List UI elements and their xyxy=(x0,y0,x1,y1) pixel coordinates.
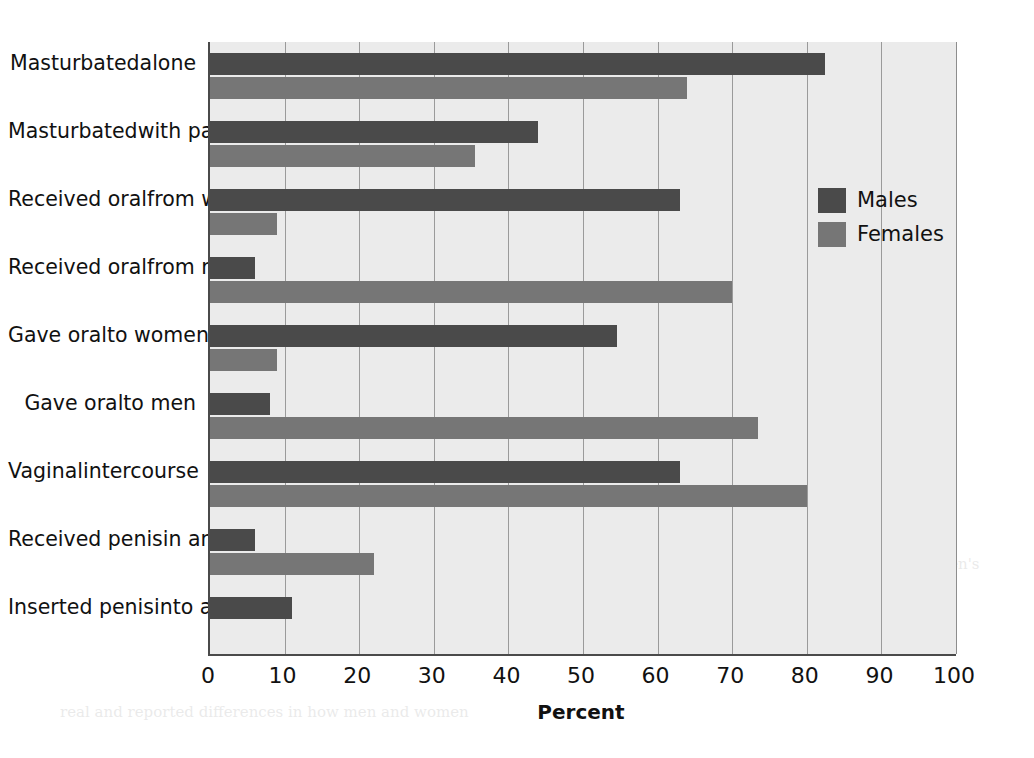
x-tick-label: 100 xyxy=(924,663,984,688)
bar-females xyxy=(210,349,277,371)
category-label: Inserted penisinto anus xyxy=(8,594,196,620)
bar-males xyxy=(210,325,617,347)
gridline xyxy=(881,42,882,654)
legend-item-males: Males xyxy=(818,183,944,217)
category-label-line: Gave oral xyxy=(24,391,123,415)
category-label: Vaginalintercourse xyxy=(8,458,196,484)
x-tick-label: 0 xyxy=(178,663,238,688)
chart-legend: Males Females xyxy=(818,183,944,251)
bar-females xyxy=(210,77,687,99)
category-label-line: Received oral xyxy=(8,255,147,279)
gridline xyxy=(732,42,733,654)
category-label: Masturbatedalone xyxy=(8,50,196,76)
category-label-line: to men xyxy=(123,391,196,415)
bar-males xyxy=(210,529,255,551)
category-label-line: Received penis xyxy=(8,527,163,551)
category-label-line: Vaginal xyxy=(8,459,83,483)
bar-females xyxy=(210,485,807,507)
category-label-line: Inserted penis xyxy=(8,595,154,619)
legend-item-females: Females xyxy=(818,217,944,251)
legend-swatch-females-icon xyxy=(818,222,846,247)
category-label: Received penisin anus xyxy=(8,526,196,552)
gridline xyxy=(807,42,808,654)
x-tick-label: 20 xyxy=(327,663,387,688)
gridline xyxy=(583,42,584,654)
bar-males xyxy=(210,393,270,415)
bar-females xyxy=(210,145,475,167)
bar-males xyxy=(210,597,292,619)
category-label-line: Masturbated xyxy=(10,51,140,75)
bar-chart: MasturbatedaloneMasturbatedwith partnerR… xyxy=(0,0,1034,758)
legend-label-males: Males xyxy=(857,188,918,212)
category-label-line: to women xyxy=(107,323,209,347)
gridline xyxy=(956,42,957,654)
bar-males xyxy=(210,257,255,279)
category-label-line: Gave oral xyxy=(8,323,107,347)
x-tick-label: 40 xyxy=(476,663,536,688)
legend-swatch-males-icon xyxy=(818,188,846,213)
legend-label-females: Females xyxy=(857,222,944,246)
category-label: Gave oralto men xyxy=(8,390,196,416)
x-tick-label: 80 xyxy=(775,663,835,688)
bar-females xyxy=(210,553,374,575)
x-tick-label: 50 xyxy=(551,663,611,688)
category-label: Masturbatedwith partner xyxy=(8,118,196,144)
gridline xyxy=(658,42,659,654)
category-label-line: Masturbated xyxy=(8,119,138,143)
bar-females xyxy=(210,213,277,235)
plot-area xyxy=(208,42,956,656)
category-label-line: intercourse xyxy=(83,459,199,483)
bar-males xyxy=(210,189,680,211)
bar-males xyxy=(210,121,538,143)
x-tick-label: 90 xyxy=(849,663,909,688)
bar-females xyxy=(210,417,758,439)
x-tick-label: 70 xyxy=(700,663,760,688)
x-tick-label: 10 xyxy=(253,663,313,688)
category-label: Received oralfrom women xyxy=(8,186,196,212)
x-tick-label: 30 xyxy=(402,663,462,688)
bar-males xyxy=(210,461,680,483)
x-tick-label: 60 xyxy=(626,663,686,688)
category-label: Gave oralto women xyxy=(8,322,196,348)
bar-males xyxy=(210,53,825,75)
x-axis-title: Percent xyxy=(208,700,954,724)
category-label-line: Received oral xyxy=(8,187,147,211)
category-label: Received oralfrom men xyxy=(8,254,196,280)
category-label-line: alone xyxy=(140,51,196,75)
bar-females xyxy=(210,281,732,303)
